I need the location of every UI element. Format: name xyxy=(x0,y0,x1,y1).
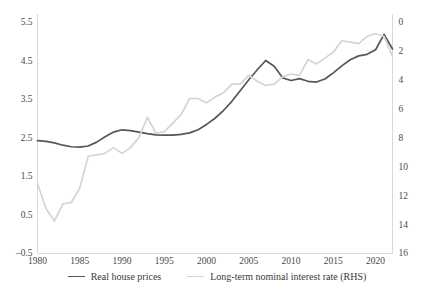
legend-item-long-term-nominal-interest-rate: Long-term nominal interest rate (RHS) xyxy=(187,271,366,282)
right-axis-tick-label: 8 xyxy=(399,133,404,143)
right-axis-tick-label: 10 xyxy=(399,162,409,172)
x-axis-tick-label: 2015 xyxy=(324,256,343,266)
x-axis-tick-label: 2000 xyxy=(197,256,216,266)
left-axis-tick-label: 5.5 xyxy=(21,17,33,27)
chart-container: 5.54.53.52.51.50.5–0.5024681012141619801… xyxy=(0,0,434,294)
legend-swatch-real-house-prices xyxy=(68,276,85,277)
series-line-long-term-nominal-interest-rate-rhs xyxy=(38,34,393,222)
axis-labels-layer: 5.54.53.52.51.50.5–0.5024681012141619801… xyxy=(15,17,408,266)
x-axis-tick-label: 2020 xyxy=(366,256,385,266)
x-axis-tick-label: 1985 xyxy=(70,256,89,266)
x-axis-tick-label: 1990 xyxy=(113,256,132,266)
right-axis-tick-label: 0 xyxy=(399,17,404,27)
left-axis-tick-label: 4.5 xyxy=(21,56,33,66)
series-layer xyxy=(38,34,393,222)
x-axis-tick-label: 2010 xyxy=(282,256,301,266)
x-axis-tick-label: 2005 xyxy=(239,256,258,266)
left-axis-tick-label: 0.5 xyxy=(21,210,33,220)
left-axis-tick-label: 1.5 xyxy=(21,171,33,181)
left-axis-tick-label: 2.5 xyxy=(21,133,33,143)
axes-layer xyxy=(38,14,393,253)
right-axis-tick-label: 6 xyxy=(399,104,404,114)
right-axis-tick-label: 12 xyxy=(399,191,409,201)
x-axis-tick-label: 1980 xyxy=(28,256,47,266)
right-axis-tick-label: 14 xyxy=(399,220,409,230)
line-chart: 5.54.53.52.51.50.5–0.5024681012141619801… xyxy=(0,0,434,294)
legend-swatch-long-term-nominal-interest-rate xyxy=(187,276,204,277)
x-axis-tick-label: 1995 xyxy=(155,256,174,266)
legend-item-real-house-prices: Real house prices xyxy=(68,271,162,282)
right-axis-tick-label: 16 xyxy=(399,248,409,258)
right-axis-tick-label: 2 xyxy=(399,46,404,56)
series-line-real-house-prices xyxy=(38,34,393,147)
right-axis-tick-label: 4 xyxy=(399,75,404,85)
legend-label-real-house-prices: Real house prices xyxy=(91,271,162,282)
left-axis-tick-label: 3.5 xyxy=(21,94,33,104)
legend-label-long-term-nominal-interest-rate: Long-term nominal interest rate (RHS) xyxy=(210,271,366,282)
chart-legend: Real house prices Long-term nominal inte… xyxy=(0,266,434,286)
